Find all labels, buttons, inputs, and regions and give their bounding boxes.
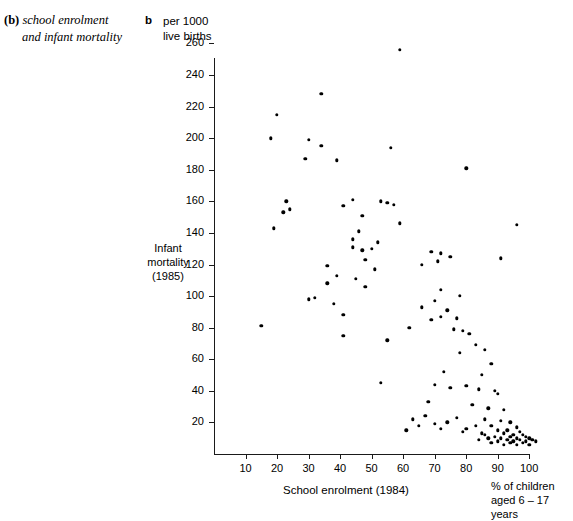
x-axis-tick-label: 80 — [451, 462, 481, 474]
scatter-point — [326, 282, 329, 285]
scatter-point — [502, 432, 505, 435]
scatter-point — [398, 48, 401, 51]
x-axis-tick-label: 30 — [294, 462, 324, 474]
scatter-point — [439, 252, 442, 255]
scatter-plot-area: 2040608010012014016018020022024026010203… — [214, 58, 530, 455]
x-axis-tick — [340, 454, 341, 459]
scatter-point — [487, 407, 490, 410]
scatter-point — [319, 92, 322, 95]
scatter-point — [490, 424, 493, 427]
scatter-point — [505, 429, 508, 432]
y-axis-tick-label: 200 — [164, 131, 204, 143]
scatter-point — [527, 443, 530, 446]
scatter-point — [335, 274, 338, 277]
scatter-point — [461, 430, 464, 433]
scatter-point — [288, 208, 291, 211]
x-axis-tick-label: 100 — [514, 462, 544, 474]
y-axis-tick-label: 260 — [164, 36, 204, 48]
figure-caption-line2: and infant mortality — [4, 29, 144, 46]
scatter-point — [458, 351, 461, 354]
scatter-point — [430, 318, 433, 321]
figure-caption-line1: school enrolment — [22, 13, 108, 27]
x-axis-tick — [246, 454, 247, 459]
scatter-point — [420, 305, 423, 308]
scatter-point — [468, 332, 471, 335]
scatter-point — [480, 373, 483, 376]
x-axis-note-line2: aged 6 – 17 years — [491, 493, 573, 521]
scatter-point — [423, 414, 426, 417]
scatter-point — [364, 258, 367, 261]
scatter-point — [439, 427, 442, 430]
x-axis-tick — [435, 454, 436, 459]
figure-caption-tag: (b) — [4, 13, 19, 27]
scatter-point — [446, 421, 449, 424]
scatter-point — [499, 419, 502, 422]
y-axis-tick — [209, 170, 214, 171]
scatter-point — [342, 313, 345, 316]
x-axis-tick — [498, 454, 499, 459]
y-axis-tick — [209, 359, 214, 360]
y-axis-tick — [209, 422, 214, 423]
y-axis-tick-label: 60 — [164, 352, 204, 364]
scatter-point — [386, 339, 389, 342]
scatter-point — [490, 362, 493, 365]
scatter-point — [307, 138, 310, 141]
scatter-point — [493, 435, 496, 438]
x-axis-tick — [372, 454, 373, 459]
scatter-point — [282, 211, 285, 214]
scatter-point — [420, 263, 423, 266]
scatter-point — [496, 429, 499, 432]
scatter-point — [471, 403, 474, 406]
scatter-point — [379, 200, 382, 203]
scatter-point — [373, 268, 376, 271]
scatter-point — [499, 257, 502, 260]
scatter-point — [417, 424, 420, 427]
scatter-point — [313, 296, 316, 299]
scatter-point — [357, 230, 360, 233]
scatter-point — [411, 418, 414, 421]
y-axis-tick-label: 180 — [164, 163, 204, 175]
scatter-point — [304, 157, 307, 160]
scatter-point — [490, 441, 493, 444]
scatter-point — [477, 388, 480, 391]
y-axis-tick — [209, 107, 214, 108]
x-axis-tick-label: 20 — [262, 462, 292, 474]
scatter-point — [398, 222, 401, 225]
x-axis-title: School enrolment (1984) — [283, 484, 409, 496]
y-axis-tick — [209, 75, 214, 76]
y-axis-tick — [209, 328, 214, 329]
scatter-point — [386, 201, 389, 204]
scatter-point — [439, 315, 442, 318]
scatter-point — [455, 416, 458, 419]
scatter-point — [436, 260, 439, 263]
x-axis-tick — [403, 454, 404, 459]
x-axis-tick — [277, 454, 278, 459]
scatter-point — [275, 113, 278, 116]
scatter-point — [455, 317, 458, 320]
scatter-point — [464, 384, 467, 387]
scatter-point — [442, 370, 445, 373]
scatter-point — [464, 166, 467, 169]
scatter-point — [319, 144, 322, 147]
scatter-point — [392, 203, 395, 206]
y-axis-tick-label: 40 — [164, 384, 204, 396]
x-axis-tick — [466, 454, 467, 459]
scatter-point — [483, 348, 486, 351]
x-axis-tick-label: 90 — [483, 462, 513, 474]
scatter-point — [335, 159, 338, 162]
scatter-point — [502, 443, 505, 446]
y-axis-units-line1: per 1000 — [163, 14, 212, 29]
y-axis-line — [214, 58, 215, 455]
scatter-point — [496, 440, 499, 443]
scatter-point — [461, 329, 464, 332]
figure-caption: (b) school enrolment and infant mortalit… — [4, 12, 144, 46]
y-axis-tick — [209, 43, 214, 44]
y-axis-tick — [209, 233, 214, 234]
scatter-point — [474, 343, 477, 346]
scatter-point — [433, 383, 436, 386]
scatter-point — [285, 200, 288, 203]
scatter-point — [260, 324, 263, 327]
y-axis-tick-label: 120 — [164, 258, 204, 270]
y-axis-tick-label: 160 — [164, 194, 204, 206]
